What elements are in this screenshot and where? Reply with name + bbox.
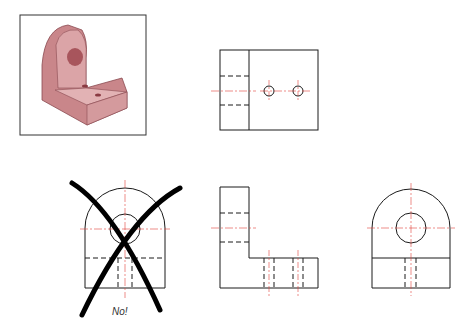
top-view: [211, 50, 318, 130]
front-view: [211, 187, 318, 296]
side-view: [367, 183, 455, 296]
no-label: No!: [112, 306, 128, 317]
drawing-canvas: [0, 0, 472, 323]
isometric-view: [20, 15, 146, 135]
incorrect-front-view: [72, 180, 180, 315]
